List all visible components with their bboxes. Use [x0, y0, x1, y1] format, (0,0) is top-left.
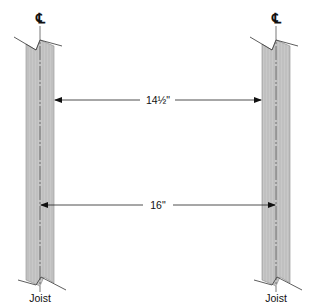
right-joist-label: Joist [265, 292, 287, 304]
left-joist-label: Joist [29, 292, 51, 304]
joist-spacing-diagram: ℄ ℄ 14½" 16" Joist Joist [0, 0, 313, 307]
dimension-on-center: 16" [41, 199, 275, 211]
right-centerline-symbol: ℄ [271, 10, 282, 26]
dimension-clear-span: 14½" [55, 94, 261, 106]
dimension-clear-span-label: 14½" [146, 94, 170, 106]
left-centerline-symbol: ℄ [35, 10, 46, 26]
left-joist [14, 26, 66, 292]
dimension-on-center-label: 16" [150, 199, 166, 211]
right-joist [250, 26, 302, 292]
